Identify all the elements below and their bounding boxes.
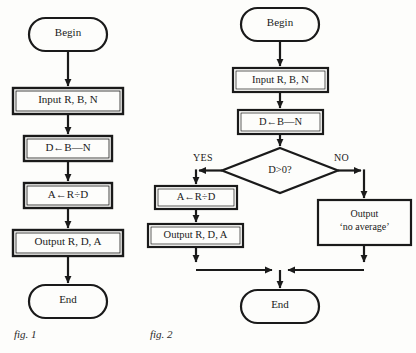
fig2-node-input-inner <box>236 71 325 89</box>
figure-1 <box>13 18 123 318</box>
fig2-node-begin[interactable] <box>241 8 319 41</box>
figure-2 <box>148 8 411 323</box>
figure-2-caption: fig. 2 <box>150 328 173 340</box>
fig1-node-input[interactable] <box>13 88 123 114</box>
fig1-node-compute-a[interactable] <box>24 183 112 208</box>
fig2-node-compute-a[interactable] <box>155 186 237 209</box>
fig2-node-output-values-inner <box>151 227 240 244</box>
fig2-node-compute-d-inner <box>241 113 320 131</box>
fig2-node-output-values[interactable] <box>148 224 243 247</box>
fig1-node-begin[interactable] <box>29 18 107 51</box>
fig1-node-compute-a-inner <box>27 186 109 205</box>
fig1-node-output-inner <box>16 233 120 253</box>
fig2-node-end[interactable] <box>241 290 319 323</box>
fig2-node-output-no-average[interactable] <box>318 200 411 245</box>
fig2-node-compute-a-inner <box>158 189 234 206</box>
fig1-node-end[interactable] <box>29 285 107 318</box>
fig2-node-decision[interactable] <box>222 148 338 193</box>
fig1-node-output[interactable] <box>13 230 123 256</box>
fig1-node-compute-d[interactable] <box>24 136 112 161</box>
fig2-node-compute-d[interactable] <box>238 110 323 134</box>
fig2-branch-label-yes: YES <box>193 152 213 163</box>
fig2-node-input[interactable] <box>233 68 328 92</box>
fig1-node-input-inner <box>16 91 120 111</box>
fig2-branch-label-no: NO <box>334 152 349 163</box>
figure-1-caption: fig. 1 <box>14 328 37 340</box>
flowchart-canvas <box>0 0 416 353</box>
fig1-node-compute-d-inner <box>27 139 109 158</box>
